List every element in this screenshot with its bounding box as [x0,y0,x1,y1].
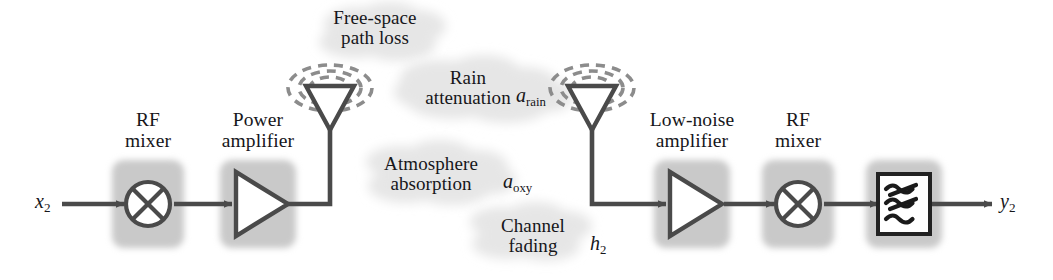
symbol-rain-attenuation: arain [516,84,546,110]
input-signal-label: x2 [35,190,51,216]
rf-link-block-diagram: RF mixer Power amplifier Low-noise ampli… [0,0,1053,280]
label-rx-rf-mixer: RF mixer [753,110,843,151]
label-free-space-path-loss: Free-space path loss [313,8,437,48]
symbol-channel-fading: h2 [590,232,606,258]
mixer-circle-x-icon-tx [126,182,170,226]
filter-wavy-lines-icon [878,174,930,234]
label-channel-fading: Channel fading [477,216,589,256]
label-low-noise-amplifier: Low-noise amplifier [626,110,758,151]
label-tx-rf-mixer: RF mixer [103,110,193,151]
mixer-circle-x-icon-rx [776,182,820,226]
label-atmosphere-absorption: Atmosphere absorption [363,154,499,194]
symbol-atmosphere-absorption: aoxy [503,170,532,196]
label-rain-attenuation: Rain attenuation [402,68,534,108]
label-power-amplifier: Power amplifier [203,110,313,151]
output-signal-label: y2 [1000,190,1016,216]
